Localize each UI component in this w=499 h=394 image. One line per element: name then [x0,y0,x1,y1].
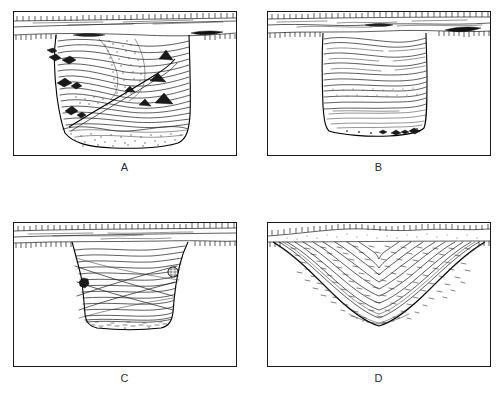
panel-d-label: D [267,372,491,384]
panel-c-artifact-right [168,267,178,277]
panel-b: B [267,11,491,156]
panel-c-label: C [13,372,237,384]
panel-c-frame [14,223,237,367]
figure-container: A [0,0,499,394]
panel-d-frame [268,223,491,367]
panel-b-label: B [267,161,491,173]
panel-a: A [13,11,237,156]
panel-b-drawing [267,11,491,156]
panel-b-frame [268,12,491,156]
panel-c-drawing [13,222,237,367]
panel-d: D [267,222,491,367]
panel-a-label: A [13,161,237,173]
panel-a-drawing [13,11,237,156]
panel-d-drawing [267,222,491,367]
panel-c: C [13,222,237,367]
